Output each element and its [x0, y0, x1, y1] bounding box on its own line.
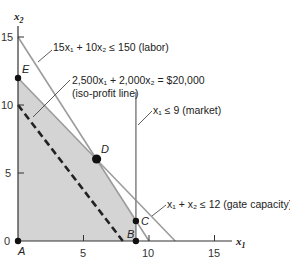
- iso-profit-label: 2,500x₁ + 2,000x₂ = $20,000: [72, 74, 205, 86]
- gate-leader: [152, 205, 166, 216]
- point-D: [92, 154, 101, 163]
- y-tick-label-15: 15: [1, 31, 13, 43]
- market-leader: [138, 111, 152, 125]
- x-tick-label-5: 5: [80, 247, 86, 259]
- point-label-A: A: [17, 245, 25, 257]
- point-C: [133, 218, 139, 224]
- point-A: [15, 238, 21, 244]
- labor-label: 15x₁ + 10x₂ ≤ 150 (labor): [53, 41, 169, 53]
- point-E: [15, 75, 21, 81]
- point-label-D: D: [101, 143, 109, 155]
- iso-profit-sublabel: (iso-profit line): [72, 87, 139, 99]
- y-tick-label-10: 10: [1, 99, 13, 111]
- x-axis-title: x1: [235, 235, 246, 250]
- x-tick-label-10: 10: [142, 247, 154, 259]
- y-axis-title: x2: [13, 10, 24, 25]
- market-label: x₁ ≤ 9 (market): [153, 104, 221, 116]
- point-label-E: E: [22, 63, 30, 75]
- y-tick-label-5: 5: [5, 167, 11, 179]
- lp-graph: 0 5 10 15 5 10 15 x2 x1 A B C D E 15x₁ +…: [0, 0, 290, 272]
- x-tick-label-15: 15: [208, 247, 220, 259]
- labor-leader: [38, 50, 52, 62]
- point-label-B: B: [127, 228, 134, 240]
- feasible-region: [18, 78, 136, 241]
- gate-capacity-label: x₁ + x₂ ≤ 12 (gate capacity): [167, 198, 290, 210]
- point-label-C: C: [141, 215, 149, 227]
- y-tick-label-0: 0: [4, 235, 10, 247]
